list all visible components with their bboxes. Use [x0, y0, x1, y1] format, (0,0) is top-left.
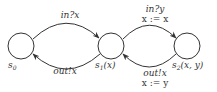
state-label-s1: s1(x)	[95, 60, 116, 71]
state-label-s0: s0	[8, 60, 17, 71]
state-s1	[98, 33, 124, 59]
edge-label-s1-s2-guard: in?y	[146, 4, 166, 14]
edge-label-s2-s1-assign: x := y	[142, 78, 169, 88]
edge-s1-s2	[123, 25, 176, 39]
edge-label-s0-s1: in?x	[61, 10, 80, 20]
state-s2	[174, 33, 200, 59]
edge-label-s1-s2-assign: x := x	[142, 14, 168, 24]
state-diagram: in?x out!x in?y x := x out!x x := y s0 s…	[0, 0, 217, 92]
edge-label-s1-s0: out!x	[53, 66, 77, 76]
edge-s0-s1	[33, 23, 99, 39]
state-s0	[8, 33, 34, 59]
edge-s2-s1	[123, 54, 176, 67]
edge-label-s2-s1-guard: out!x	[143, 68, 167, 78]
state-label-s2: s2(x, y)	[172, 60, 204, 71]
